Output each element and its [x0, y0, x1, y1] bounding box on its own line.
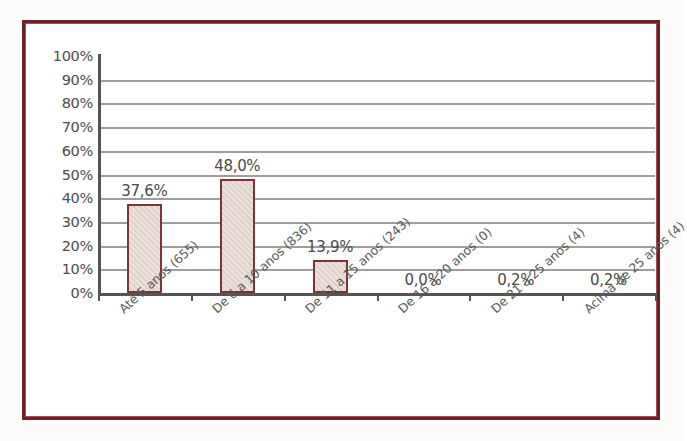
x-axis-tick	[191, 293, 193, 301]
x-axis-tick	[98, 293, 100, 301]
y-axis-tick-label: 90%	[62, 72, 93, 88]
bar-value-label: 13,9%	[307, 238, 353, 256]
y-axis-labels: 100%90%80%70%60%50%40%30%20%10%0%	[25, 56, 93, 293]
bar-value-label: 48,0%	[214, 157, 260, 175]
y-axis-tick-label: 20%	[62, 238, 93, 254]
x-axis-tick	[562, 293, 564, 301]
y-axis-tick-label: 80%	[62, 95, 93, 111]
y-axis-tick-label: 10%	[62, 261, 93, 277]
bar-column[interactable]	[313, 56, 348, 293]
x-axis-tick	[469, 293, 471, 301]
y-axis-tick-label: 60%	[62, 143, 93, 159]
x-axis-tick	[377, 293, 379, 301]
y-axis-tick-label: 40%	[62, 190, 93, 206]
x-axis-tick	[655, 293, 657, 301]
y-axis-tick-label: 70%	[62, 119, 93, 135]
bar-value-label: 37,6%	[121, 182, 167, 200]
chart-frame: 100%90%80%70%60%50%40%30%20%10%0% 37,6%4…	[22, 20, 660, 420]
y-axis-tick-label: 50%	[62, 167, 93, 183]
bar-column[interactable]	[127, 56, 162, 293]
y-axis-tick-label: 30%	[62, 214, 93, 230]
y-axis-tick-label: 100%	[53, 48, 93, 64]
y-axis-tick-label: 0%	[71, 285, 93, 301]
bar-chart: 100%90%80%70%60%50%40%30%20%10%0% 37,6%4…	[25, 23, 657, 417]
x-axis-tick	[284, 293, 286, 301]
